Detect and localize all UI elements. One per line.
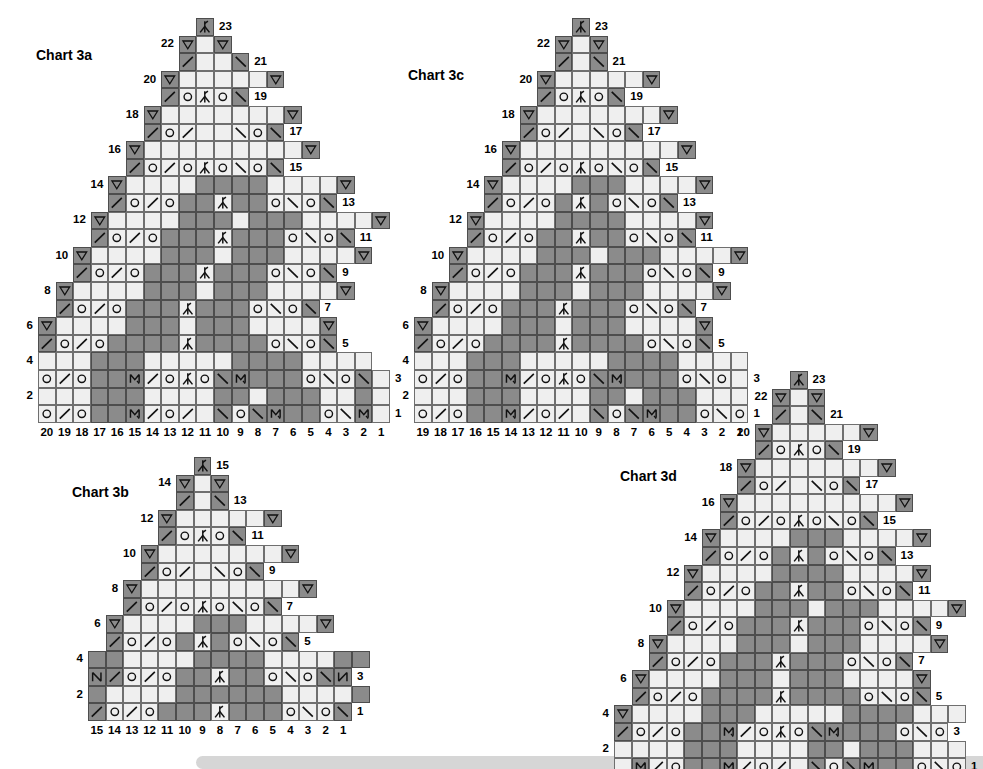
chart-cell xyxy=(625,247,643,265)
chart-cell xyxy=(38,335,56,353)
chart-cell xyxy=(825,688,843,706)
chart-cell xyxy=(843,600,861,618)
chart-cell xyxy=(123,703,141,721)
chart-cell xyxy=(825,424,843,442)
chart-cell xyxy=(141,651,159,669)
chart-cell xyxy=(232,317,250,335)
chart-cell xyxy=(214,124,232,142)
chart-cell xyxy=(372,388,390,406)
chart-cell xyxy=(267,282,285,300)
chart-cell xyxy=(320,352,338,370)
chart-cell xyxy=(667,723,685,741)
chart-cell xyxy=(246,545,264,563)
chart-cell xyxy=(176,492,194,510)
chart-cell xyxy=(249,71,267,89)
chart-cell xyxy=(755,653,773,671)
row-number-label: 4 xyxy=(392,354,409,366)
chart-cell xyxy=(144,141,162,159)
chart-cell xyxy=(432,352,450,370)
chart-cell xyxy=(249,141,267,159)
chart-cell xyxy=(484,335,502,353)
chart-cell xyxy=(196,106,214,124)
row-number-label: 5 xyxy=(304,635,310,647)
chart-cell xyxy=(948,741,966,759)
chart-cell xyxy=(808,741,826,759)
chart-cell xyxy=(625,388,643,406)
chart-cell xyxy=(246,668,264,686)
chart-cell xyxy=(678,176,696,194)
chart-cell xyxy=(860,688,878,706)
chart-cell xyxy=(144,388,162,406)
chart-cell xyxy=(161,264,179,282)
chart-cell xyxy=(667,635,685,653)
chart-cell xyxy=(555,71,573,89)
chart-cell xyxy=(684,565,702,583)
row-number-label: 9 xyxy=(936,619,942,631)
chart-cell xyxy=(713,388,731,406)
chart-cell xyxy=(108,370,126,388)
chart-cell xyxy=(414,370,432,388)
chart-cell xyxy=(755,529,773,547)
column-number-label: 2 xyxy=(713,426,731,438)
chart-cell xyxy=(158,510,176,528)
row-number-label: 5 xyxy=(718,337,724,349)
chart-cell xyxy=(484,370,502,388)
chart-cell xyxy=(948,758,966,769)
chart-cell xyxy=(302,300,320,318)
chart-cell xyxy=(790,424,808,442)
row-number-label: 4 xyxy=(66,652,83,664)
chart-cell xyxy=(502,247,520,265)
chart-cell xyxy=(106,615,124,633)
chart-cell xyxy=(144,194,162,212)
chart-cell xyxy=(608,229,626,247)
chart-cell xyxy=(843,670,861,688)
chart-cell xyxy=(755,565,773,583)
chart-cell xyxy=(572,300,590,318)
chart-cell xyxy=(608,282,626,300)
chart-cell xyxy=(843,512,861,530)
chart-cell xyxy=(790,670,808,688)
chart-cell xyxy=(572,88,590,106)
chart-cell xyxy=(211,527,229,545)
chart-cell xyxy=(790,547,808,565)
chart-cell xyxy=(702,653,720,671)
chart-cell xyxy=(106,651,124,669)
chart-cell xyxy=(808,389,826,407)
chart-cell xyxy=(808,758,826,769)
chart-cell xyxy=(302,141,320,159)
chart-cell xyxy=(502,194,520,212)
chart-cell xyxy=(158,615,176,633)
chart-cell xyxy=(194,510,212,528)
chart-cell xyxy=(731,352,749,370)
chart-cell xyxy=(537,388,555,406)
row-number-label: 20 xyxy=(139,73,156,85)
chart-cell xyxy=(141,580,159,598)
chart-cell xyxy=(108,264,126,282)
chart-cell xyxy=(537,176,555,194)
chart-cell xyxy=(590,36,608,54)
chart-cell xyxy=(126,264,144,282)
chart-cell xyxy=(179,247,197,265)
chart-cell xyxy=(282,633,300,651)
row-number-label: 20 xyxy=(733,426,750,438)
chart-cell xyxy=(808,441,826,459)
chart-cell xyxy=(878,600,896,618)
chart-cell xyxy=(229,545,247,563)
chart-cell xyxy=(249,335,267,353)
chart-cell xyxy=(484,388,502,406)
chart-cell xyxy=(73,370,91,388)
chart-cell xyxy=(302,405,320,423)
chart-cell xyxy=(467,335,485,353)
chart-cell xyxy=(608,212,626,230)
chart-cell xyxy=(484,194,502,212)
chart-cell xyxy=(264,545,282,563)
row-number-label: 10 xyxy=(51,249,68,261)
chart-cell xyxy=(38,352,56,370)
row-number-label: 7 xyxy=(701,301,707,313)
chart-cell xyxy=(302,264,320,282)
chart-cell xyxy=(590,106,608,124)
chart-cell xyxy=(590,212,608,230)
chart-cell xyxy=(555,370,573,388)
chart-cell xyxy=(144,300,162,318)
chart-cell xyxy=(790,617,808,635)
